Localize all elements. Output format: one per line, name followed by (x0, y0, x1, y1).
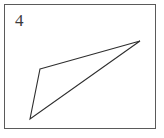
figure-panel: 4 (0, 0, 164, 138)
figure-index-label: 4 (15, 12, 24, 29)
figure-frame-border (4, 4, 156, 129)
